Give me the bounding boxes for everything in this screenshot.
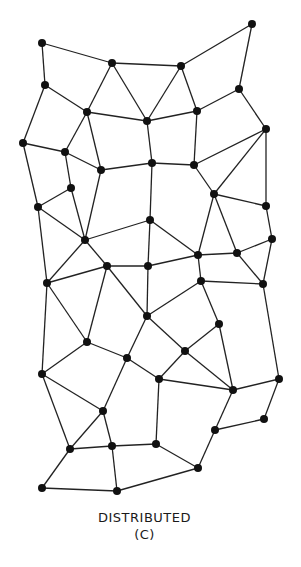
network-link: [239, 24, 252, 89]
network-link: [233, 379, 279, 390]
network-link: [38, 207, 47, 283]
network-link: [47, 283, 87, 342]
network-link: [42, 374, 70, 449]
network-link: [147, 266, 148, 316]
network-node: [275, 375, 283, 383]
network-link: [147, 121, 152, 163]
network-link: [148, 255, 198, 266]
network-link: [65, 112, 87, 152]
network-link: [65, 152, 71, 188]
network-link: [87, 63, 112, 112]
network-node: [215, 320, 223, 328]
network-link: [198, 253, 237, 255]
network-link: [264, 379, 279, 419]
network-link: [201, 281, 263, 284]
network-link: [42, 43, 112, 63]
network-link: [150, 163, 152, 220]
network-link: [117, 468, 198, 491]
network-node: [262, 125, 270, 133]
network-link: [42, 488, 117, 491]
network-node: [61, 148, 69, 156]
network-link: [38, 188, 71, 207]
network-node: [148, 159, 156, 167]
network-link: [23, 85, 45, 143]
network-node: [19, 139, 27, 147]
network-link: [23, 143, 38, 207]
network-link: [23, 143, 65, 152]
network-node: [144, 262, 152, 270]
network-link: [87, 342, 127, 358]
network-link: [101, 163, 152, 170]
network-link: [147, 281, 201, 316]
network-link: [87, 112, 101, 170]
network-link: [156, 379, 159, 444]
network-link: [237, 253, 263, 284]
network-link: [237, 239, 272, 253]
network-link: [65, 152, 101, 170]
network-node: [235, 85, 243, 93]
network-node: [143, 117, 151, 125]
network-node: [248, 20, 256, 28]
network-link: [85, 170, 101, 240]
network-node: [99, 407, 107, 415]
network-link: [181, 66, 197, 111]
network-link: [42, 342, 87, 374]
network-node: [143, 312, 151, 320]
network-link: [85, 220, 150, 240]
network-link: [45, 85, 87, 112]
network-link: [42, 449, 70, 488]
network-node: [41, 81, 49, 89]
network-link: [198, 430, 215, 468]
network-link: [194, 165, 214, 194]
network-link: [214, 129, 266, 194]
network-node: [193, 107, 201, 115]
network-link: [214, 194, 237, 253]
network-node: [38, 370, 46, 378]
network-node: [194, 464, 202, 472]
network-link: [152, 163, 194, 165]
network-node: [177, 62, 185, 70]
network-node: [66, 445, 74, 453]
network-node: [194, 251, 202, 259]
network-link: [42, 43, 45, 85]
network-link: [42, 374, 103, 411]
network-node: [113, 487, 121, 495]
network-link: [127, 316, 147, 358]
network-link: [42, 283, 47, 374]
network-edges: [23, 24, 279, 491]
network-node: [152, 440, 160, 448]
network-link: [112, 63, 181, 66]
network-link: [112, 63, 147, 121]
network-link: [215, 419, 264, 430]
network-link: [127, 358, 159, 379]
network-link: [201, 281, 219, 324]
network-node: [103, 262, 111, 270]
network-link: [87, 112, 147, 121]
network-node: [34, 203, 42, 211]
network-node: [229, 386, 237, 394]
network-link: [266, 206, 272, 239]
network-node: [108, 442, 116, 450]
network-node: [190, 161, 198, 169]
diagram-subtitle: (C): [0, 527, 295, 542]
network-link: [263, 284, 279, 379]
network-node: [233, 249, 241, 257]
network-link: [103, 411, 112, 446]
network-node: [210, 190, 218, 198]
network-node: [268, 235, 276, 243]
network-link: [214, 194, 266, 206]
network-link: [150, 220, 198, 255]
network-link: [147, 111, 197, 121]
network-link: [87, 266, 107, 342]
network-node: [260, 415, 268, 423]
network-node: [81, 236, 89, 244]
network-node: [83, 338, 91, 346]
network-link: [215, 390, 233, 430]
network-link: [198, 194, 214, 255]
network-node: [155, 375, 163, 383]
network-node: [211, 426, 219, 434]
network-link: [85, 240, 107, 266]
network-link: [147, 316, 185, 351]
network-node: [38, 39, 46, 47]
network-link: [112, 444, 156, 446]
